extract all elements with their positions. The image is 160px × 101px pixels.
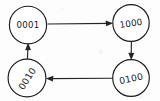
edge-0010-to-0001 [25,43,31,60]
node-label-0001: 0001 [16,20,39,30]
node-0010[interactable]: 0010 [8,59,46,97]
edge-0001-to-1000 [48,20,114,26]
diagram-canvas: 0001 1000 0010 0100 [0,0,160,101]
node-0001[interactable]: 0001 [9,6,46,44]
edge-0100-to-0010 [46,76,113,82]
node-1000[interactable]: 1000 [113,5,149,42]
edge-line-top [48,23,111,24]
arrowhead-right [106,20,114,26]
arrowhead-left [46,76,54,82]
edge-1000-to-0100 [128,41,134,60]
state-transition-diagram: 0001 1000 0010 0100 [0,0,160,101]
node-0100[interactable]: 0100 [113,60,150,97]
